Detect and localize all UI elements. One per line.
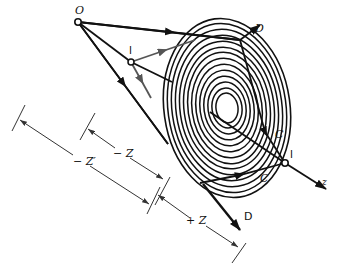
label-dim-neg-z-prime: − Z′ bbox=[73, 155, 96, 168]
axis-z bbox=[285, 163, 326, 189]
image-point bbox=[282, 160, 288, 166]
label-virtual-point: I bbox=[129, 45, 132, 56]
label-dim-neg-z: − Z bbox=[113, 147, 134, 160]
label-converging-upper: C bbox=[275, 128, 284, 141]
source-point bbox=[75, 19, 81, 25]
zone-plate bbox=[152, 10, 302, 206]
zone-plate-diagram: O I D C I C z D − Z − Z′ + Z bbox=[0, 0, 337, 266]
label-dim-pos-z: + Z bbox=[186, 214, 207, 227]
label-diffracted-lower: D bbox=[244, 210, 252, 223]
label-axis-z: z bbox=[321, 177, 327, 187]
virtual-point bbox=[128, 59, 134, 65]
label-diffracted-upper: D bbox=[254, 22, 264, 35]
label-source-point: O bbox=[75, 4, 84, 17]
label-image-point: I bbox=[290, 149, 293, 160]
label-converging-lower: C bbox=[260, 172, 269, 185]
